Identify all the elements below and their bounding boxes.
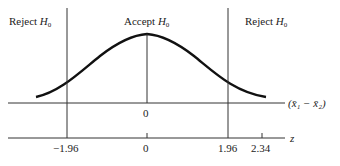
lower-tick-label-234: 2.34 bbox=[251, 143, 270, 154]
label-text: Accept bbox=[124, 15, 155, 27]
label-text: Reject bbox=[245, 15, 273, 27]
lower-axis-label: z bbox=[290, 133, 294, 144]
label-subscript: 0 bbox=[48, 21, 52, 29]
label-subscript: 0 bbox=[284, 21, 288, 29]
label-subscript: 0 bbox=[166, 21, 170, 29]
lower-tick-label-neg196: −1.96 bbox=[53, 143, 78, 154]
region-label-reject-left: Reject H0 bbox=[9, 16, 51, 29]
upper-axis-label: (x̄₁ − x̄₂) bbox=[288, 98, 326, 109]
upper-tick-label-0: 0 bbox=[143, 108, 149, 119]
region-label-accept: Accept H0 bbox=[124, 16, 169, 29]
label-symbol: H bbox=[40, 15, 48, 27]
label-text: Reject bbox=[9, 15, 37, 27]
normal-curve bbox=[36, 34, 266, 97]
lower-tick-label-196: 1.96 bbox=[218, 143, 237, 154]
lower-tick-label-0: 0 bbox=[143, 143, 149, 154]
label-symbol: H bbox=[158, 15, 166, 27]
region-label-reject-right: Reject H0 bbox=[245, 16, 287, 29]
label-symbol: H bbox=[276, 15, 284, 27]
